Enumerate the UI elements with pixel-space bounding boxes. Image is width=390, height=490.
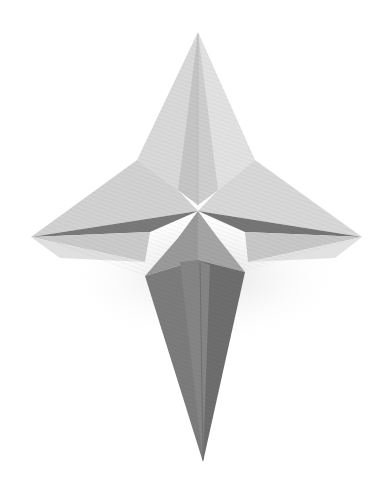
origami-star	[0, 0, 390, 490]
paper-texture	[31, 32, 362, 462]
